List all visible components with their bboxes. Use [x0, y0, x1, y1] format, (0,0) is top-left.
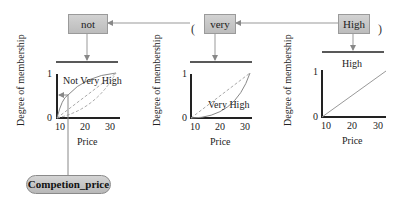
chart3-xlabel: Price [342, 135, 363, 146]
chart3-xtick-20: 20 [347, 120, 357, 131]
chart-high [321, 70, 386, 117]
chart2-ytick-1: 1 [182, 68, 187, 79]
high-operator-box[interactable]: High [338, 14, 370, 34]
chart1-ytick-0: 0 [47, 112, 52, 123]
open-paren: ( [191, 22, 195, 37]
chart3-ylabel: Degree of membership [283, 66, 293, 126]
competition-price-node[interactable]: Competion_price [26, 175, 111, 194]
chart1-xtick-10: 10 [55, 121, 65, 132]
chart1-ytick-1: 1 [47, 68, 52, 79]
chart3-xtick-30: 30 [373, 120, 383, 131]
chart2-curve-label: Very High [208, 99, 249, 110]
chart2-xlabel: Price [210, 136, 231, 147]
very-operator-box[interactable]: very [204, 14, 236, 34]
chart2-ytick-0: 0 [182, 112, 187, 123]
chart-very-high [190, 73, 252, 118]
chart3-ytick-1: 1 [313, 66, 318, 77]
chart3-xtick-10: 10 [321, 120, 331, 131]
chart2-xtick-30: 30 [240, 121, 250, 132]
not-operator-box[interactable]: not [68, 14, 108, 34]
chart1-curve-label: Not Very High [63, 75, 122, 86]
chart2-xtick-10: 10 [190, 121, 200, 132]
chart1-xtick-30: 30 [105, 121, 115, 132]
chart2-ylabel: Degree of membership [152, 66, 162, 126]
chart3-curve-label: High [342, 58, 362, 69]
chart1-xlabel: Price [77, 136, 98, 147]
chart3-ytick-0: 0 [313, 111, 318, 122]
chart2-xtick-20: 20 [215, 121, 225, 132]
close-paren: ) [378, 22, 382, 37]
chart1-ylabel: Degree of membership [16, 66, 26, 126]
chart1-xtick-20: 20 [80, 121, 90, 132]
